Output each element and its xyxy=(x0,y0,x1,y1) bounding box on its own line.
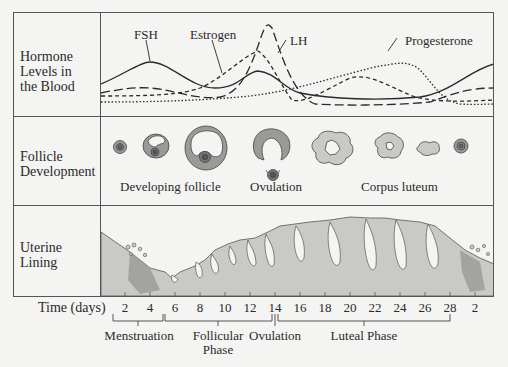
tick-label: 2 xyxy=(115,300,135,316)
phase-ovulation: Ovulation xyxy=(245,329,305,343)
tick-label: 24 xyxy=(390,300,410,316)
tick-label: 16 xyxy=(290,300,310,316)
follicle-drawings xyxy=(114,126,469,181)
tick-label: 10 xyxy=(215,300,235,316)
corpus-luteum-large-icon xyxy=(312,131,353,164)
new-primary-follicle-icon xyxy=(454,139,468,153)
corpus-albicans-icon xyxy=(417,142,440,156)
progesterone-label: Progesterone xyxy=(405,33,473,49)
developing-follicle-label: Developing follicle xyxy=(120,179,221,195)
tick-label: 28 xyxy=(440,300,460,316)
tick-label: 22 xyxy=(365,300,385,316)
tick-label: 26 xyxy=(415,300,435,316)
fsh-label: FSH xyxy=(134,27,158,43)
phase-follicular: Follicular Phase xyxy=(188,329,248,357)
ovulation-follicle-label: Ovulation xyxy=(250,179,302,195)
secondary-follicle-icon xyxy=(143,134,169,158)
phase-luteal: Luteal Phase xyxy=(324,329,404,343)
fsh-curve xyxy=(101,62,494,99)
graafian-follicle-icon xyxy=(185,126,227,170)
tick-label: 12 xyxy=(240,300,260,316)
uterine-lining xyxy=(101,217,494,297)
corpus-luteum-medium-icon xyxy=(375,133,403,158)
ovulation-follicle-icon xyxy=(253,129,290,181)
corpus-luteum-label: Corpus luteum xyxy=(361,179,438,195)
axis-title: Time (days) xyxy=(38,300,106,316)
phase-follicular-line1: Follicular xyxy=(188,329,248,343)
tick-label: 2 xyxy=(465,300,485,316)
estrogen-label: Estrogen xyxy=(190,27,236,43)
progesterone-curve xyxy=(101,63,494,104)
lh-label: LH xyxy=(290,33,307,49)
tick-label: 14 xyxy=(265,300,285,316)
tick-label: 6 xyxy=(165,300,185,316)
tick-label: 8 xyxy=(190,300,210,316)
phase-menstruation: Menstruation xyxy=(104,329,174,343)
tick-label: 20 xyxy=(340,300,360,316)
tick-label: 18 xyxy=(315,300,335,316)
phase-follicular-line2: Phase xyxy=(188,343,248,357)
tick-label: 4 xyxy=(140,300,160,316)
primary-follicle-icon xyxy=(114,141,127,154)
